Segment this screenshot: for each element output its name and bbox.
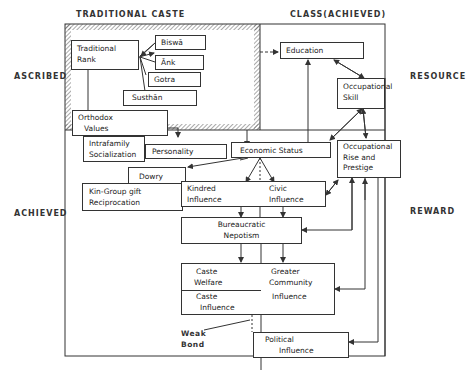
node-susthan: Susthān — [123, 90, 197, 106]
node-text: Greater — [261, 266, 334, 277]
node-text: Values — [78, 123, 162, 134]
node-greater-community-influence: Greater Community Influence — [261, 263, 335, 315]
node-text: Reciprocation — [89, 197, 176, 208]
node-biswa: Biswā — [155, 35, 206, 50]
node-text: Traditional — [77, 43, 133, 54]
node-text: Influence — [269, 194, 317, 205]
node-orthodox-values: Orthodox Values — [72, 110, 168, 136]
node-text: Kindred — [187, 183, 256, 194]
annotation-text: Bond — [181, 339, 206, 350]
node-text: Bureaucratic — [182, 219, 301, 230]
node-text: Skill — [343, 92, 379, 103]
label-ascribed: ASCRIBED — [14, 72, 67, 81]
node-text: Rank — [77, 54, 133, 65]
node-kindred-influence: Kindred Influence — [181, 181, 261, 207]
node-text: Intrafamily — [89, 138, 139, 149]
node-text: Welfare — [182, 277, 261, 288]
node-occupational-skill: Occupational Skill — [337, 78, 385, 109]
node-civic-influence: Civic Influence — [261, 181, 326, 207]
header-traditional-caste: TRADITIONAL CASTE — [76, 10, 185, 19]
node-occupational-rise-prestige: Occupational Rise and Prestige — [337, 140, 401, 178]
node-text: Kin-Group gift — [89, 186, 176, 197]
node-education: Education — [280, 42, 364, 59]
header-class-achieved: CLASS(ACHIEVED) — [290, 10, 386, 19]
node-intrafamily-socialization: Intrafamily Socialization — [83, 136, 145, 162]
node-ank: Ānk — [155, 55, 204, 70]
node-text: Influence — [182, 302, 261, 313]
node-text: Caste — [182, 266, 261, 277]
annotation-text: Weak — [181, 328, 206, 339]
node-bureaucratic-nepotism: Bureaucratic Nepotism — [181, 217, 302, 244]
node-text: Caste — [182, 290, 261, 302]
node-text: Socialization — [89, 149, 139, 160]
label-achieved: ACHIEVED — [14, 209, 68, 218]
node-text: Rise and — [343, 153, 395, 164]
node-text: Prestige — [343, 163, 395, 174]
label-resource: RESOURCE — [410, 72, 466, 81]
node-text: Occupational — [343, 142, 395, 153]
node-text: Civic — [269, 183, 317, 194]
node-text: Influence — [254, 345, 348, 356]
node-political-influence: Political Influence — [253, 332, 349, 358]
node-text: Political — [254, 334, 348, 345]
node-text: Influence — [187, 194, 256, 205]
node-kin-group-gift-reciprocation: Kin-Group gift Reciprocation — [82, 183, 183, 211]
node-caste-group: Caste Welfare Caste Influence — [181, 263, 261, 315]
node-text: Occupational — [343, 81, 379, 92]
label-reward: REWARD — [410, 207, 455, 216]
node-economic-status: Economic Status — [231, 142, 331, 158]
node-gotra: Gotra — [148, 72, 201, 87]
node-text: Influence — [261, 291, 334, 302]
annotation-weak-bond: Weak Bond — [181, 328, 206, 350]
node-traditional-rank: Traditional Rank — [71, 40, 139, 70]
node-text: Orthodox — [78, 112, 162, 123]
node-personality: Personality — [145, 144, 227, 159]
node-text: Community — [261, 277, 334, 288]
node-text: Nepotism — [182, 230, 301, 241]
